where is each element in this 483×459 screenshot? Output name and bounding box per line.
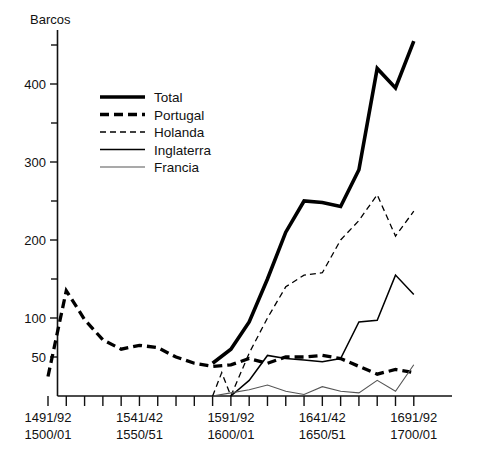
y-tick-label: 200 bbox=[24, 233, 46, 248]
x-axis: 1491/921500/011541/421550/511591/921600/… bbox=[25, 396, 453, 442]
chart-legend: TotalPortugalHolandaInglaterraFrancia bbox=[100, 90, 212, 175]
legend-label-inglaterra: Inglaterra bbox=[154, 143, 212, 158]
chart-container: Barcos 50100200300400 1491/921500/011541… bbox=[0, 0, 483, 459]
x-tick-label-line2: 1700/01 bbox=[390, 427, 437, 442]
series-line-holanda bbox=[231, 195, 414, 396]
x-tick-label-line2: 1500/01 bbox=[25, 427, 72, 442]
series-line-total bbox=[213, 41, 414, 363]
legend-label-holanda: Holanda bbox=[154, 125, 205, 140]
x-label-group: 1491/921500/011541/421550/511591/921600/… bbox=[25, 410, 438, 442]
series-line-inglaterra bbox=[231, 275, 414, 396]
legend-label-total: Total bbox=[154, 90, 183, 105]
legend-label-portugal: Portugal bbox=[154, 108, 204, 123]
x-tick-label-line1: 1591/92 bbox=[207, 410, 254, 425]
series-line-portugal bbox=[48, 291, 414, 377]
x-tick-group bbox=[48, 396, 414, 406]
y-tick-label: 100 bbox=[24, 311, 46, 326]
x-tick-label-line2: 1550/51 bbox=[116, 427, 163, 442]
y-tick-label: 300 bbox=[24, 155, 46, 170]
y-axis-title: Barcos bbox=[30, 12, 71, 27]
x-tick-label-line1: 1541/42 bbox=[116, 410, 163, 425]
series-line-holanda-spike bbox=[213, 373, 231, 396]
y-tick-label: 400 bbox=[24, 77, 46, 92]
x-tick-label-line2: 1600/01 bbox=[207, 427, 254, 442]
x-tick-label-line1: 1491/92 bbox=[25, 410, 72, 425]
series-line-francia bbox=[213, 365, 414, 396]
x-tick-label-line2: 1650/51 bbox=[299, 427, 346, 442]
legend-label-francia: Francia bbox=[154, 160, 200, 175]
series-group bbox=[48, 41, 414, 396]
line-chart-figure: Barcos 50100200300400 1491/921500/011541… bbox=[0, 0, 483, 459]
y-tick-group: 50100200300400 bbox=[24, 45, 58, 365]
x-tick-label-line1: 1641/42 bbox=[299, 410, 346, 425]
y-tick-label: 50 bbox=[32, 350, 46, 365]
y-axis: 50100200300400 bbox=[24, 30, 58, 396]
x-tick-label-line1: 1691/92 bbox=[390, 410, 437, 425]
